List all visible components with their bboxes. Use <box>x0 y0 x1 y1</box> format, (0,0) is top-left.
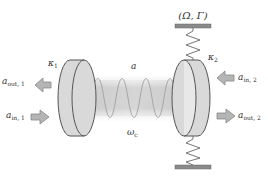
optomechanical-cavity-diagram: (Ω, Γ) κ1 κ2 a ωc aout, 1 ain, 1 ain, 2 … <box>0 0 268 177</box>
top-spring <box>175 24 211 60</box>
arrow-in-2-icon <box>217 71 234 85</box>
left-mirror <box>58 60 96 136</box>
arrow-out-1-icon <box>35 78 51 92</box>
a-in-1-label: ain, 1 <box>6 110 25 121</box>
bottom-spring <box>175 136 211 169</box>
arrow-in-1-icon <box>31 110 49 124</box>
cavity-frequency-label: ωc <box>127 127 138 138</box>
bottom-anchor-bar <box>175 165 211 169</box>
a-out-2-label: aout, 2 <box>238 110 261 121</box>
kappa2-label: κ2 <box>207 52 218 63</box>
a-out-1-label: aout, 1 <box>2 76 25 87</box>
mechanical-params-label: (Ω, Γ) <box>178 10 207 21</box>
arrow-out-2-icon <box>217 109 235 123</box>
top-anchor-bar <box>175 24 211 28</box>
right-mirror <box>172 60 210 136</box>
a-in-2-label: ain, 2 <box>238 72 257 83</box>
kappa1-label: κ1 <box>47 58 58 69</box>
cavity-field <box>86 72 182 124</box>
cavity-mode-label: a <box>131 61 136 71</box>
